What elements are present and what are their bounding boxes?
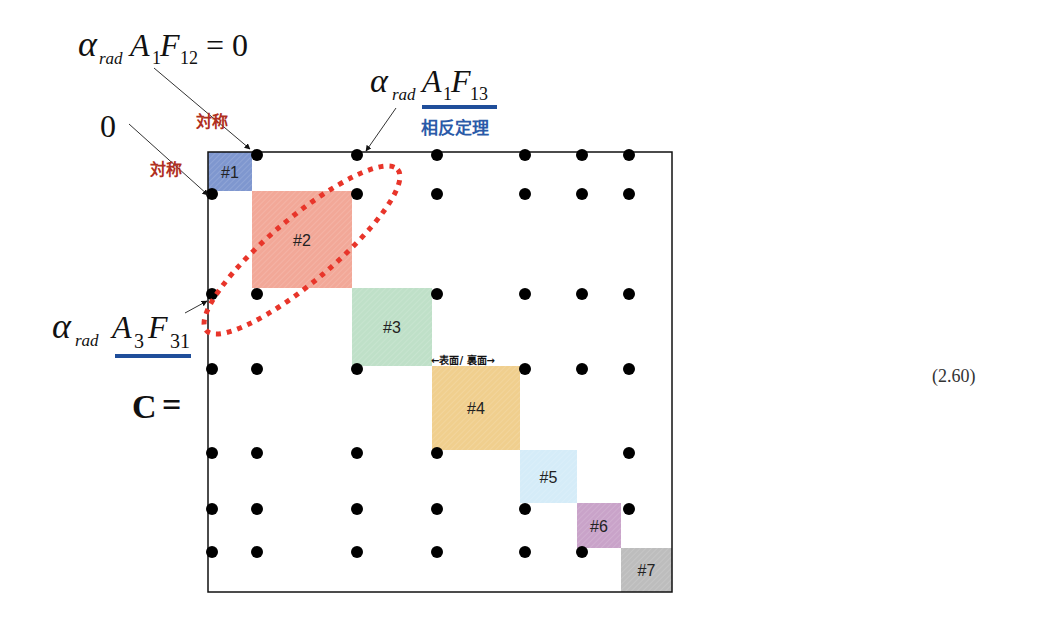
entry-dot-r6-c1 — [206, 503, 218, 515]
entry-dot-r5-c2 — [251, 447, 263, 459]
entry-dot-r4-c1 — [206, 363, 218, 375]
entry-dot-r1-c3 — [351, 149, 363, 161]
symmetry-label-left: 対称 — [149, 160, 182, 179]
block-label: #3 — [383, 319, 401, 336]
area-symbol: A — [420, 63, 442, 99]
entry-dot-r2-c1 — [206, 188, 218, 200]
arrow-a1f13 — [366, 108, 396, 151]
equals-zero: = 0 — [206, 27, 248, 63]
equation-number: (2.60) — [932, 366, 976, 387]
entry-dot-r2-c6 — [576, 188, 588, 200]
alpha-symbol: α — [52, 306, 72, 346]
entry-dot-r7-c6 — [576, 546, 588, 558]
area-subscript: 3 — [134, 330, 144, 352]
block-label: #1 — [221, 164, 239, 181]
block-4: #4 — [432, 366, 520, 450]
arrow-a1f12 — [154, 68, 250, 149]
matrix-symbol: C — [132, 388, 157, 425]
entry-dot-r7-c2 — [251, 546, 263, 558]
viewfactor-subscript: 12 — [180, 48, 198, 68]
entry-dot-r3-c6 — [576, 288, 588, 300]
area-symbol: A — [128, 27, 150, 63]
block-3: #3 — [352, 288, 432, 366]
entry-dot-r1-c4 — [431, 149, 443, 161]
entry-dot-r1-c6 — [576, 149, 588, 161]
entry-dot-r3-c7 — [623, 288, 635, 300]
block-2: #2 — [252, 191, 352, 288]
entry-dot-r4-c5 — [519, 363, 531, 375]
block-label: #2 — [293, 232, 311, 249]
block-label: #5 — [540, 469, 558, 486]
block-label: #7 — [638, 562, 656, 579]
symmetry-label-top: 対称 — [195, 112, 228, 131]
arrow-a3f31 — [185, 301, 207, 313]
entry-dot-r5-c7 — [623, 447, 635, 459]
equals-sign: = — [162, 386, 181, 423]
block-1: #1 — [208, 152, 252, 191]
entry-dot-r2-c3 — [351, 188, 363, 200]
entry-dot-r2-c7 — [623, 188, 635, 200]
block-label: #4 — [467, 400, 485, 417]
entry-dot-r1-c2 — [251, 149, 263, 161]
entry-dot-r4-c7 — [623, 363, 635, 375]
underline-a1f13 — [422, 105, 497, 109]
entry-dot-r3-c4 — [431, 288, 443, 300]
entry-dot-r2-c4 — [431, 188, 443, 200]
formula-a3f31: α rad A 3 F 31 — [52, 306, 190, 352]
viewfactor-subscript: 31 — [170, 330, 190, 352]
entry-dot-r7-c3 — [351, 546, 363, 558]
entry-dot-r4-c6 — [576, 363, 588, 375]
underline-a3f31 — [115, 354, 191, 358]
viewfactor-symbol: F — [159, 27, 180, 63]
entry-dot-r1-c7 — [623, 149, 635, 161]
entry-dot-r5-c3 — [351, 447, 363, 459]
entry-dot-r3-c5 — [519, 288, 531, 300]
alpha-subscript: rad — [75, 331, 99, 350]
alpha-subscript: rad — [392, 85, 416, 104]
diagonal-blocks: #1#2#3#4#5#6#7 — [208, 152, 672, 592]
entry-dot-r2-c5 — [519, 188, 531, 200]
view-factor-matrix-diagram: #1#2#3#4#5#6#7 α rad A 1 F 12 = 0 0 対称 対… — [0, 0, 1046, 622]
block-6: #6 — [577, 503, 621, 548]
viewfactor-symbol: F — [450, 63, 471, 99]
entry-dot-r6-c7 — [623, 503, 635, 515]
alpha-symbol: α — [78, 24, 98, 64]
entry-dot-r4-c2 — [251, 363, 263, 375]
viewfactor-subscript: 13 — [470, 84, 488, 104]
entry-dot-r6-c3 — [351, 503, 363, 515]
entry-dot-r7-c1 — [206, 546, 218, 558]
entry-dot-r3-c2 — [251, 288, 263, 300]
entry-dot-r7-c5 — [519, 546, 531, 558]
entry-dot-r6-c5 — [519, 503, 531, 515]
formula-a1f12: α rad A 1 F 12 = 0 — [78, 24, 248, 68]
entry-dot-r4-c3 — [351, 363, 363, 375]
entry-dot-r6-c4 — [431, 503, 443, 515]
block-label: #6 — [590, 518, 608, 535]
entry-dot-r7-c4 — [431, 546, 443, 558]
area-symbol: A — [110, 309, 132, 345]
entry-dot-r1-c5 — [519, 149, 531, 161]
block-7: #7 — [621, 548, 672, 592]
surface-label: ←表面/ 裏面→ — [431, 354, 495, 366]
viewfactor-symbol: F — [147, 309, 168, 345]
alpha-subscript: rad — [99, 49, 123, 68]
formula-a1f13: α rad A 1 F 13 — [370, 62, 488, 104]
zero-label: 0 — [100, 108, 116, 144]
alpha-symbol: α — [370, 62, 389, 99]
block-5: #5 — [520, 450, 577, 503]
entry-dot-r6-c2 — [251, 503, 263, 515]
reciprocity-label: 相反定理 — [421, 118, 489, 138]
entry-dot-r5-c1 — [206, 447, 218, 459]
entry-dot-r5-c4 — [431, 447, 443, 459]
